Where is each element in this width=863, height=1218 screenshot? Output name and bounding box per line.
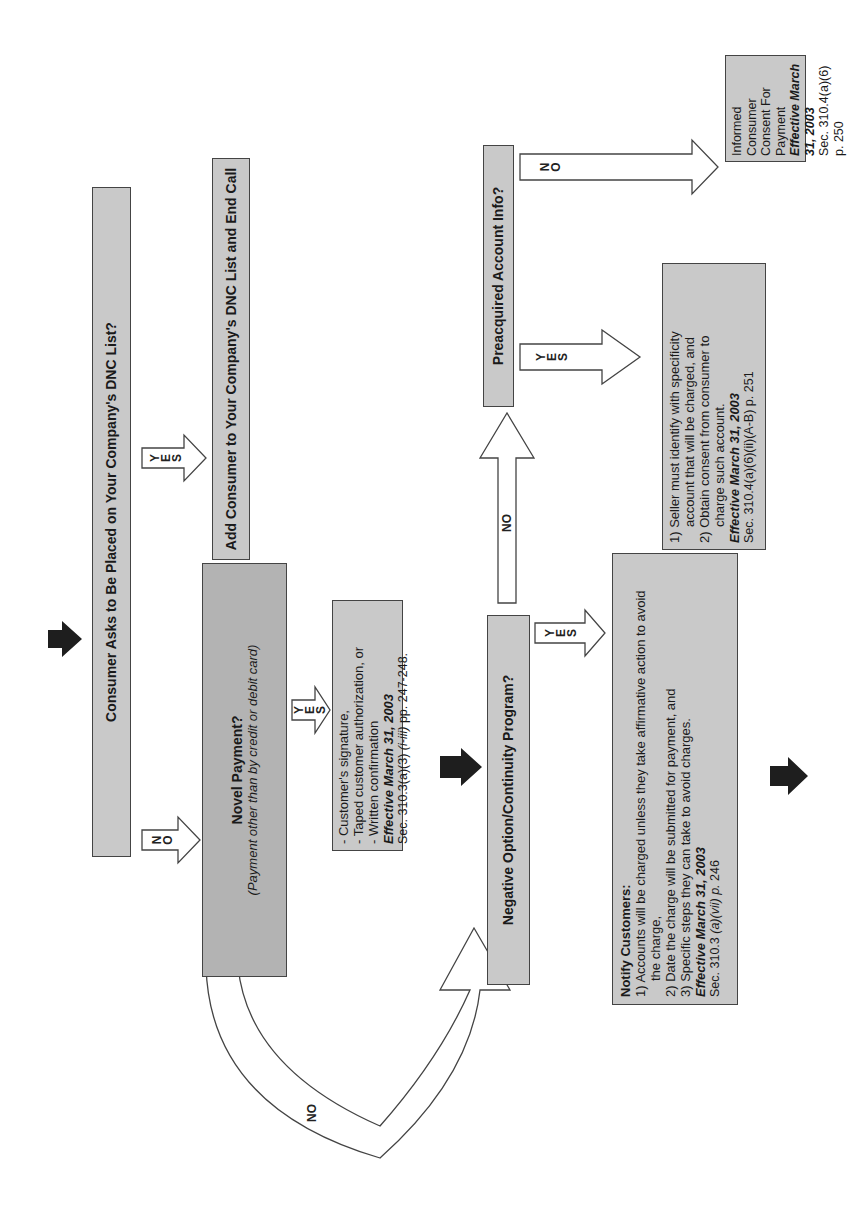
no-label-preacquired: N O — [540, 161, 562, 173]
section-citation: Sec. 310.3 (a)(vii) p. 246 — [708, 561, 723, 997]
section-prefix: Sec. 310.3(a)(3) — [396, 750, 410, 844]
section-prefix: Sec. 310.3 — [708, 934, 722, 997]
yes-label-preacquired: Y E S — [536, 351, 569, 363]
requirement-line: 2) Obtain consent from consumer to — [697, 270, 712, 543]
requirement-line: - Customer's signature, — [336, 607, 351, 844]
notify-customers-box: Notify Customers: 1) Accounts will be ch… — [612, 553, 738, 1005]
yes-letter: S — [567, 627, 578, 639]
no-letter: O — [163, 834, 174, 846]
section-italic: (i-iii) — [396, 727, 410, 751]
no-label-dnc: N O — [152, 834, 174, 846]
dnc-question-box: Consumer Asks to Be Placed on Your Compa… — [92, 187, 131, 857]
yes-letter: S — [172, 452, 183, 464]
effective-date: Effective March 31, 2003 — [693, 561, 708, 997]
notify-line: 3) Specific steps they can take to avoid… — [678, 561, 693, 997]
novel-payment-box: Novel Payment? (Payment other than by cr… — [202, 563, 287, 977]
effective-date: Effective March 31, 2003 — [788, 61, 817, 156]
novel-payment-yes-box: - Customer's signature, - Taped customer… — [332, 600, 403, 851]
solid-arrow-to-negative-icon — [440, 748, 482, 786]
entry-arrow-icon — [48, 621, 82, 657]
section-suffix: 246 — [708, 860, 722, 884]
requirement-line: - Written confirmation — [366, 607, 381, 844]
yes-letter: S — [558, 351, 569, 363]
consent-line: Consent For Payment — [759, 61, 788, 156]
yes-label-dnc: Y E S — [150, 452, 183, 464]
effective-date: Effective March 31, 2003 — [727, 270, 742, 543]
consent-line: Informed Consumer — [730, 61, 759, 156]
preacquired-box: Preacquired Account Info? — [483, 145, 514, 407]
solid-arrow-exit-icon — [770, 757, 808, 795]
requirement-line: account that will be charged, and — [682, 270, 697, 543]
add-to-dnc-box: Add Consumer to Your Company's DNC List … — [212, 158, 250, 560]
section-citation: Sec. 310.3(a)(3) (i-iii) pp. 247-248. — [396, 607, 411, 844]
notify-title: Notify Customers: — [618, 561, 633, 997]
effective-date: Effective March 31, 2003 — [381, 607, 396, 844]
novel-payment-subtitle: (Payment other than by credit or debit c… — [245, 645, 260, 896]
preacquired-yes-box: 1) Seller must identify with specificity… — [662, 263, 766, 550]
no-letter: O — [551, 161, 562, 173]
novel-payment-title: Novel Payment? — [230, 716, 245, 825]
flowchart-canvas: Y E S N O Y E S Y E S NO Y E S N O NO Co… — [0, 0, 863, 1218]
yes-label-negative: Y E S — [545, 627, 578, 639]
requirement-line: 1) Seller must identify with specificity — [667, 270, 682, 543]
section-italic: (a)(vii) p. — [708, 884, 722, 933]
notify-line: 1) Accounts will be charged unless they … — [633, 561, 648, 997]
no-label-curved: NO — [305, 1098, 319, 1128]
preacquired-no-box: Informed Consumer Consent For Payment Ef… — [725, 55, 806, 162]
section-citation: Sec. 310.4(a)(6)(ii)(A-B) p. 251 — [742, 270, 757, 543]
requirement-line: - Taped customer authorization, or — [351, 607, 366, 844]
section-suffix: pp. 247-248. — [396, 653, 410, 727]
negative-option-box: Negative Option/Continuity Program? — [487, 615, 530, 985]
notify-line: the charge, — [648, 561, 663, 997]
notify-line: 2) Date the charge will be submitted for… — [663, 561, 678, 997]
section-citation: Sec. 310.4(a)(6) p. 250 — [817, 61, 846, 156]
no-label-negative: NO — [500, 508, 514, 538]
yes-letter: S — [316, 704, 327, 716]
yes-label-novel: Y E S — [294, 704, 327, 716]
requirement-line: charge such account. — [712, 270, 727, 543]
